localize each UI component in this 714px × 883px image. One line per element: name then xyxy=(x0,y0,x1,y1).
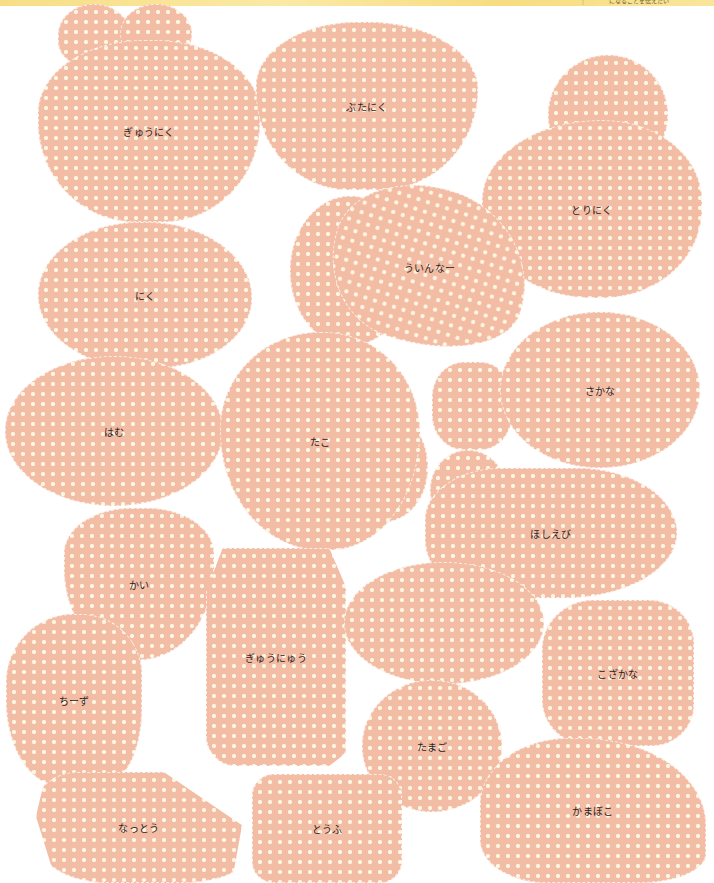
card-gyuuniku-body[interactable]: ぎゅうにく xyxy=(38,40,260,222)
card-kamaboko[interactable]: かまぼこ xyxy=(480,738,706,883)
card-sakana[interactable]: さかな xyxy=(500,312,700,468)
banner-text: になることを伝えたい xyxy=(609,0,669,5)
card-label: にく xyxy=(135,288,156,303)
card-label: ぎゅうにく xyxy=(123,124,175,139)
card-label: かまぼこ xyxy=(572,803,613,818)
card-chiizu[interactable]: ちーず xyxy=(6,614,142,786)
card-label: ういんなー xyxy=(404,260,456,275)
card-label: ぶたにく xyxy=(346,99,387,114)
card-label: とうふ xyxy=(312,821,343,836)
card-sakana-tail xyxy=(432,362,512,450)
card-label: たこ xyxy=(310,434,331,449)
card-hamu[interactable]: はむ xyxy=(5,356,223,506)
card-label: はむ xyxy=(104,424,125,439)
top-banner: ⋮ になることを伝えたい xyxy=(0,0,714,6)
card-label: なっとう xyxy=(118,820,159,835)
card-label: かい xyxy=(129,577,150,592)
card-label: ぎゅうにゅう xyxy=(245,650,307,665)
card-kozakana[interactable]: こざかな xyxy=(542,600,694,746)
banner-mark: ⋮ xyxy=(580,0,586,6)
card-label: さかな xyxy=(585,383,616,398)
card-nattou[interactable]: なっとう xyxy=(36,772,242,883)
card-label: こざかな xyxy=(597,666,638,681)
card-niku[interactable]: にく xyxy=(38,222,252,368)
card-butaniku[interactable]: ぶたにく xyxy=(256,22,478,190)
card-label: ほしえび xyxy=(530,526,571,541)
card-tako[interactable]: たこ xyxy=(220,332,420,550)
card-tamago-top xyxy=(344,562,544,684)
card-toufu[interactable]: とうふ xyxy=(252,774,402,883)
card-label: ちーず xyxy=(59,693,90,708)
card-gyuunyuu[interactable]: ぎゅうにゅう xyxy=(206,548,346,766)
card-label: たまご xyxy=(417,739,448,754)
card-label: とりにく xyxy=(571,202,612,217)
